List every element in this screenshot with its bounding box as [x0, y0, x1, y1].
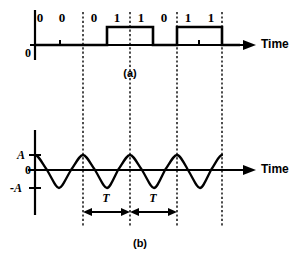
- period-arrowhead-1-left: [83, 208, 92, 216]
- caption-b: (b): [133, 238, 147, 249]
- panel-a-time-arrowhead: [243, 40, 256, 50]
- period-arrowhead-2-right: [168, 208, 177, 216]
- bit-label-7: 1: [185, 11, 192, 24]
- bit-label-4: 1: [114, 11, 121, 24]
- caption-a: (a): [123, 68, 136, 79]
- period-arrowhead-2-left: [130, 208, 139, 216]
- bit-label-1: 0: [37, 11, 44, 24]
- time-axis-label-top: Time: [261, 38, 289, 50]
- panel-b-carrier-curve: [35, 155, 222, 188]
- period-label-2: T: [149, 192, 156, 204]
- amplitude-label-positive: A: [17, 149, 25, 161]
- panel-a-pulse-train: [35, 27, 240, 45]
- bit-label-3: 0: [91, 11, 98, 24]
- origin-label-bottom: 0: [25, 164, 31, 176]
- amplitude-label-negative: -A: [10, 182, 22, 194]
- bit-label-6: 0: [161, 11, 168, 24]
- period-label-1: T: [102, 192, 109, 204]
- time-axis-label-bottom: Time: [261, 163, 289, 175]
- fsk-modulation-figure: 0 0 0 1 1 0 1 1 0 Time (a) A 0 -A Time T…: [0, 0, 299, 266]
- bit-label-8: 1: [208, 11, 215, 24]
- origin-label-top: 0: [25, 47, 31, 59]
- period-arrowhead-1-right: [121, 208, 130, 216]
- bit-label-5: 1: [138, 11, 145, 24]
- bit-label-2: 0: [59, 11, 66, 24]
- figure-svg: [0, 0, 299, 266]
- panel-b-time-arrowhead: [243, 165, 256, 175]
